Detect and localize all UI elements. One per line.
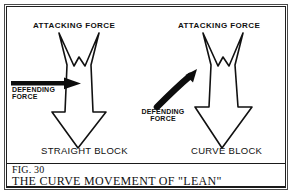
label-attacking-force-right: ATTACKING FORCE: [178, 22, 260, 30]
label-defending-force-left-line2: FORCE: [12, 93, 55, 100]
attacking-force-arrow-left: [52, 33, 106, 148]
label-straight-block: STRAIGHT BLOCK: [41, 146, 128, 156]
attacking-force-arrow-right: [195, 33, 252, 148]
label-defending-force-right-line1: DEFENDING: [136, 108, 190, 115]
label-curve-block: CURVE BLOCK: [191, 146, 262, 156]
defending-force-arrow-right: [157, 69, 197, 107]
label-defending-force-left-line1: DEFENDING: [12, 86, 55, 93]
figure-caption-block: FIG. 30 THE CURVE MOVEMENT OF "LEAN": [12, 164, 280, 188]
figure-plate: ATTACKING FORCE ATTACKING FORCE DEFENDIN…: [0, 0, 292, 196]
label-attacking-force-left: ATTACKING FORCE: [33, 22, 115, 30]
label-defending-force-right-line2: FORCE: [136, 115, 190, 122]
diagram-artwork: [7, 7, 285, 163]
label-defending-force-right: DEFENDING FORCE: [136, 108, 190, 123]
label-defending-force-left: DEFENDING FORCE: [12, 86, 55, 101]
caption-divider-bottom: [7, 186, 285, 188]
